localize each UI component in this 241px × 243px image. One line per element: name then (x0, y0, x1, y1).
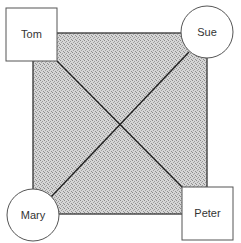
node-label-peter: Peter (194, 207, 221, 219)
node-tom: Tom (6, 8, 57, 61)
node-label-tom: Tom (21, 28, 42, 40)
node-mary: Mary (7, 189, 59, 241)
node-label-mary: Mary (21, 209, 46, 221)
network-diagram: Tom Sue Mary Peter (0, 0, 241, 243)
node-peter: Peter (182, 187, 233, 240)
node-sue: Sue (181, 6, 233, 58)
node-label-sue: Sue (197, 26, 217, 38)
